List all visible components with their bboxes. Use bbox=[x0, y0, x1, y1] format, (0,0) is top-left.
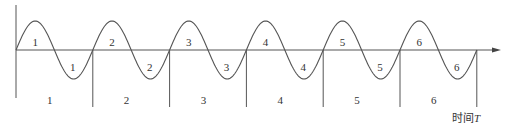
x-axis-label: 时间T bbox=[452, 112, 481, 124]
negative-half-label: 6 bbox=[454, 61, 460, 73]
negative-half-label: 5 bbox=[377, 61, 383, 73]
positive-half-label: 3 bbox=[186, 36, 192, 48]
negative-half-label: 2 bbox=[147, 61, 153, 73]
period-label: 6 bbox=[431, 94, 437, 106]
positive-half-label: 5 bbox=[340, 36, 346, 48]
positive-half-label: 1 bbox=[32, 36, 38, 48]
negative-half-label: 3 bbox=[224, 61, 230, 73]
period-label: 3 bbox=[201, 94, 207, 106]
period-label: 1 bbox=[47, 94, 53, 106]
negative-half-label: 1 bbox=[70, 61, 76, 73]
period-label: 4 bbox=[277, 94, 283, 106]
positive-half-label: 6 bbox=[416, 36, 422, 48]
negative-half-label: 4 bbox=[300, 61, 306, 73]
positive-half-label: 4 bbox=[263, 36, 269, 48]
x-axis-arrow-icon bbox=[492, 48, 501, 53]
period-label: 5 bbox=[354, 94, 360, 106]
waveform-diagram: 111222333444555666 时间T bbox=[0, 0, 514, 130]
period-label: 2 bbox=[124, 94, 130, 106]
positive-half-label: 2 bbox=[109, 36, 115, 48]
